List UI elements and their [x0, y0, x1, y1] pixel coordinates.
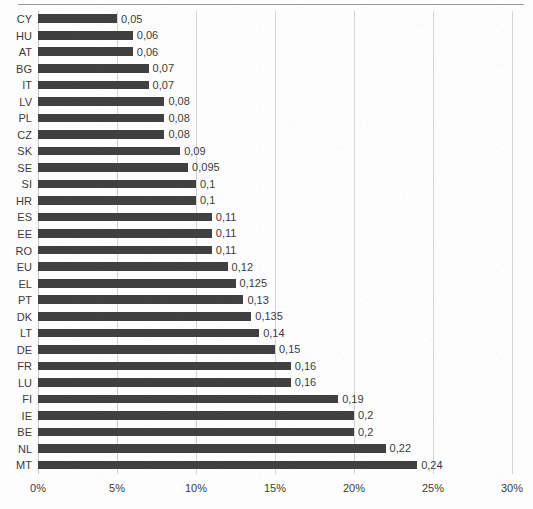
category-label-EL: EL	[2, 277, 32, 292]
xtick-label-5%: 5%	[109, 481, 125, 495]
bar-row: 0,06	[38, 44, 512, 61]
bar-value-label-LT: 0,14	[263, 326, 284, 341]
bar-SK	[38, 147, 180, 156]
bar-PT	[38, 295, 243, 304]
bar-PL	[38, 114, 164, 123]
bar-SE	[38, 163, 188, 172]
bar-value-label-FR: 0,16	[295, 359, 316, 374]
category-label-BE: BE	[2, 425, 32, 440]
xtick-label-10%: 10%	[185, 481, 207, 495]
bar-chart: 0,050,060,060,070,070,080,080,080,090,09…	[0, 0, 533, 509]
category-label-CZ: CZ	[2, 128, 32, 143]
bar-row: 0,1	[38, 193, 512, 210]
bar-LT	[38, 329, 259, 338]
bar-row: 0,19	[38, 391, 512, 408]
xtick-label-15%: 15%	[264, 481, 286, 495]
bar-value-label-EE: 0,11	[216, 226, 237, 241]
xtick-label-20%: 20%	[343, 481, 365, 495]
category-label-FI: FI	[2, 392, 32, 407]
category-label-LT: LT	[2, 326, 32, 341]
category-label-CY: CY	[2, 12, 32, 27]
bar-HU	[38, 31, 133, 40]
gridline-30%	[512, 11, 513, 474]
bar-AT	[38, 47, 133, 56]
category-label-FR: FR	[2, 359, 32, 374]
bar-row: 0,11	[38, 243, 512, 260]
category-label-NL: NL	[2, 442, 32, 457]
bar-row: 0,07	[38, 77, 512, 94]
bar-row: 0,07	[38, 61, 512, 78]
category-label-HR: HR	[2, 194, 32, 209]
bar-row: 0,095	[38, 160, 512, 177]
bar-row: 0,12	[38, 259, 512, 276]
bar-value-label-RO: 0,11	[216, 243, 237, 258]
bar-row: 0,11	[38, 209, 512, 226]
category-label-HU: HU	[2, 29, 32, 44]
bar-value-label-SK: 0,09	[184, 144, 205, 159]
bar-row: 0,08	[38, 127, 512, 144]
bar-value-label-MT: 0,24	[421, 458, 442, 473]
bar-EU	[38, 262, 228, 271]
bar-BE	[38, 428, 354, 437]
bar-EL	[38, 279, 236, 288]
category-label-MT: MT	[2, 458, 32, 473]
bar-value-label-ES: 0,11	[216, 210, 237, 225]
bar-value-label-PL: 0,08	[168, 111, 189, 126]
category-label-SK: SK	[2, 144, 32, 159]
bar-value-label-HU: 0,06	[137, 28, 158, 43]
bar-value-label-IE: 0,2	[358, 408, 373, 423]
bar-LU	[38, 378, 291, 387]
bar-row: 0,15	[38, 342, 512, 359]
bar-IE	[38, 411, 354, 420]
category-label-SI: SI	[2, 177, 32, 192]
category-label-LU: LU	[2, 376, 32, 391]
bar-value-label-LV: 0,08	[168, 94, 189, 109]
bar-row: 0,2	[38, 408, 512, 425]
bar-NL	[38, 444, 386, 453]
bar-value-label-DK: 0,135	[255, 309, 283, 324]
bar-SI	[38, 180, 196, 189]
bar-value-label-FI: 0,19	[342, 392, 363, 407]
bar-ES	[38, 213, 212, 222]
bar-value-label-CZ: 0,08	[168, 127, 189, 142]
bar-row: 0,135	[38, 309, 512, 326]
category-label-IT: IT	[2, 78, 32, 93]
bar-HR	[38, 196, 196, 205]
bar-CY	[38, 14, 117, 23]
category-label-PL: PL	[2, 111, 32, 126]
bar-DK	[38, 312, 251, 321]
category-label-SE: SE	[2, 161, 32, 176]
bar-row: 0,125	[38, 276, 512, 293]
bar-value-label-BG: 0,07	[153, 61, 174, 76]
bar-value-label-BE: 0,2	[358, 425, 373, 440]
bar-value-label-EL: 0,125	[240, 276, 268, 291]
category-label-BG: BG	[2, 62, 32, 77]
bar-row: 0,08	[38, 110, 512, 127]
plot-area: 0,050,060,060,070,070,080,080,080,090,09…	[38, 11, 512, 474]
bar-row: 0,16	[38, 358, 512, 375]
category-label-EE: EE	[2, 227, 32, 242]
bar-value-label-PT: 0,13	[247, 293, 268, 308]
xtick-label-25%: 25%	[422, 481, 444, 495]
bar-value-label-LU: 0,16	[295, 375, 316, 390]
bar-row: 0,13	[38, 292, 512, 309]
xtick-label-0%: 0%	[30, 481, 46, 495]
bar-row: 0,14	[38, 325, 512, 342]
bar-BG	[38, 64, 149, 73]
bar-MT	[38, 461, 417, 470]
bar-value-label-NL: 0,22	[390, 441, 411, 456]
bar-row: 0,09	[38, 143, 512, 160]
bar-value-label-SI: 0,1	[200, 177, 215, 192]
bar-value-label-DE: 0,15	[279, 342, 300, 357]
bar-EE	[38, 229, 212, 238]
bar-row: 0,06	[38, 28, 512, 45]
bar-value-label-CY: 0,05	[121, 12, 142, 27]
bar-value-label-EU: 0,12	[232, 260, 253, 275]
category-label-ES: ES	[2, 210, 32, 225]
bar-value-label-IT: 0,07	[153, 78, 174, 93]
bar-row: 0,05	[38, 11, 512, 28]
bar-row: 0,24	[38, 457, 512, 474]
bar-value-label-AT: 0,06	[137, 45, 158, 60]
bar-FI	[38, 395, 338, 404]
bar-row: 0,22	[38, 441, 512, 458]
